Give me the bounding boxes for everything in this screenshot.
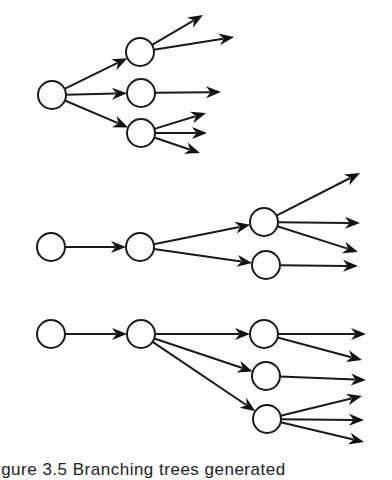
edge-arrow bbox=[65, 328, 127, 340]
edge-arrow bbox=[65, 100, 128, 127]
edge-line bbox=[153, 342, 247, 405]
tree-node bbox=[38, 81, 66, 109]
leaf-arrow bbox=[281, 414, 364, 426]
edge-line bbox=[280, 265, 347, 266]
edge-line bbox=[65, 63, 118, 89]
tree-node bbox=[250, 208, 278, 236]
leaf-arrow bbox=[155, 86, 221, 98]
edge-line bbox=[154, 227, 240, 244]
leaf-arrow bbox=[277, 226, 358, 253]
edge-arrow bbox=[153, 342, 256, 411]
edge-arrow bbox=[154, 222, 251, 244]
edge-line bbox=[281, 422, 354, 439]
edge-line bbox=[277, 226, 347, 248]
edge-arrow bbox=[65, 241, 126, 253]
edge-line bbox=[66, 94, 116, 95]
edge-line bbox=[281, 399, 352, 416]
tree-top bbox=[38, 15, 234, 154]
tree-node bbox=[127, 79, 155, 107]
edge-line bbox=[65, 100, 118, 123]
tree-node bbox=[250, 320, 278, 348]
tree-node bbox=[126, 233, 154, 261]
edge-line bbox=[281, 419, 353, 420]
leaf-arrow bbox=[278, 338, 362, 362]
edge-line bbox=[152, 21, 193, 45]
tree-node bbox=[252, 251, 280, 279]
edge-line bbox=[276, 178, 350, 216]
edge-arrow bbox=[66, 88, 127, 100]
edge-line bbox=[278, 222, 349, 223]
leaf-arrow bbox=[155, 127, 207, 139]
edge-line bbox=[154, 116, 195, 129]
leaf-arrow bbox=[154, 137, 200, 153]
edge-line bbox=[154, 137, 189, 149]
leaf-arrow bbox=[278, 217, 360, 229]
edge-line bbox=[154, 39, 223, 50]
arrowhead-icon bbox=[240, 398, 256, 411]
edge-line bbox=[278, 338, 352, 358]
edge-line bbox=[154, 338, 242, 368]
edge-arrow bbox=[155, 328, 250, 340]
edge-line bbox=[155, 92, 210, 93]
edge-line bbox=[280, 377, 355, 380]
leaf-arrow bbox=[281, 422, 364, 444]
tree-node bbox=[126, 38, 154, 66]
leaf-arrow bbox=[276, 173, 360, 216]
tree-node bbox=[253, 405, 281, 433]
tree-bottom bbox=[37, 320, 366, 444]
edge-arrow bbox=[65, 58, 128, 89]
tree-middle bbox=[37, 173, 360, 279]
leaf-arrow bbox=[154, 112, 206, 129]
tree-node bbox=[37, 233, 65, 261]
edge-arrow bbox=[154, 338, 252, 372]
leaf-arrow bbox=[152, 15, 203, 45]
leaf-arrow bbox=[278, 328, 366, 340]
edge-arrow bbox=[154, 249, 252, 267]
tree-node bbox=[37, 320, 65, 348]
tree-node bbox=[127, 119, 155, 147]
tree-node bbox=[127, 320, 155, 348]
arrowhead-icon bbox=[187, 15, 203, 28]
leaf-arrow bbox=[280, 260, 358, 272]
figure-caption: Figure 3.5 Branching trees generated bbox=[0, 460, 286, 480]
leaf-arrow bbox=[280, 373, 366, 385]
leaf-arrow bbox=[281, 394, 362, 416]
tree-node bbox=[252, 362, 280, 390]
edge-line bbox=[154, 249, 241, 261]
